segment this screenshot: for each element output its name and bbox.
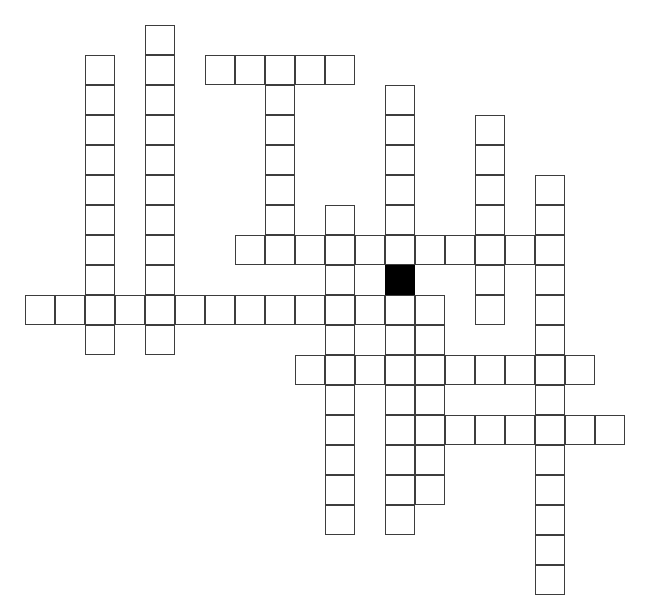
grid-cell[interactable]	[145, 85, 175, 115]
grid-cell[interactable]	[385, 475, 415, 505]
grid-cell[interactable]	[325, 415, 355, 445]
grid-cell[interactable]	[295, 55, 325, 85]
grid-cell[interactable]	[445, 355, 475, 385]
grid-cell[interactable]	[385, 145, 415, 175]
grid-cell[interactable]	[385, 175, 415, 205]
grid-cell[interactable]	[385, 115, 415, 145]
grid-cell[interactable]	[325, 265, 355, 295]
grid-cell[interactable]	[145, 205, 175, 235]
grid-cell[interactable]	[325, 505, 355, 535]
grid-cell[interactable]	[385, 505, 415, 535]
grid-cell[interactable]	[175, 295, 205, 325]
grid-cell[interactable]	[535, 385, 565, 415]
grid-cell[interactable]	[235, 55, 265, 85]
grid-cell[interactable]	[325, 385, 355, 415]
grid-cell[interactable]	[445, 235, 475, 265]
grid-cell[interactable]	[25, 295, 55, 325]
grid-cell[interactable]	[325, 325, 355, 355]
grid-cell[interactable]	[85, 205, 115, 235]
grid-cell[interactable]	[325, 55, 355, 85]
grid-cell[interactable]	[385, 415, 415, 445]
grid-cell[interactable]	[415, 475, 445, 505]
grid-cell[interactable]	[85, 265, 115, 295]
grid-cell[interactable]	[535, 355, 565, 385]
grid-cell[interactable]	[265, 145, 295, 175]
grid-cell[interactable]	[475, 175, 505, 205]
grid-cell[interactable]	[565, 415, 595, 445]
grid-cell[interactable]	[475, 115, 505, 145]
grid-cell[interactable]	[535, 535, 565, 565]
grid-cell[interactable]	[475, 205, 505, 235]
grid-cell[interactable]	[265, 295, 295, 325]
grid-cell[interactable]	[595, 415, 625, 445]
grid-cell[interactable]	[385, 235, 415, 265]
grid-cell[interactable]	[415, 445, 445, 475]
grid-cell[interactable]	[265, 235, 295, 265]
grid-cell[interactable]	[145, 145, 175, 175]
grid-cell[interactable]	[235, 295, 265, 325]
grid-cell[interactable]	[415, 355, 445, 385]
grid-cell[interactable]	[145, 115, 175, 145]
grid-cell[interactable]	[325, 205, 355, 235]
grid-cell[interactable]	[355, 295, 385, 325]
grid-cell[interactable]	[475, 295, 505, 325]
grid-cell[interactable]	[535, 565, 565, 595]
grid-cell[interactable]	[205, 295, 235, 325]
grid-cell[interactable]	[475, 415, 505, 445]
grid-cell[interactable]	[415, 295, 445, 325]
grid-cell[interactable]	[145, 265, 175, 295]
grid-cell[interactable]	[295, 235, 325, 265]
grid-cell[interactable]	[385, 385, 415, 415]
grid-cell[interactable]	[535, 175, 565, 205]
grid-cell[interactable]	[535, 235, 565, 265]
grid-cell[interactable]	[85, 235, 115, 265]
grid-cell[interactable]	[265, 85, 295, 115]
grid-cell[interactable]	[145, 295, 175, 325]
grid-cell[interactable]	[445, 415, 475, 445]
grid-cell[interactable]	[145, 175, 175, 205]
grid-cell[interactable]	[325, 355, 355, 385]
grid-cell[interactable]	[325, 235, 355, 265]
grid-cell[interactable]	[115, 295, 145, 325]
grid-cell[interactable]	[85, 55, 115, 85]
grid-cell[interactable]	[535, 325, 565, 355]
grid-cell[interactable]	[475, 235, 505, 265]
grid-cell[interactable]	[145, 235, 175, 265]
grid-cell[interactable]	[355, 235, 385, 265]
grid-cell[interactable]	[415, 415, 445, 445]
grid-cell[interactable]	[205, 55, 235, 85]
grid-cell[interactable]	[385, 205, 415, 235]
grid-cell[interactable]	[145, 325, 175, 355]
grid-cell[interactable]	[235, 235, 265, 265]
grid-cell[interactable]	[85, 175, 115, 205]
grid-cell[interactable]	[565, 355, 595, 385]
grid-cell[interactable]	[295, 295, 325, 325]
grid-cell[interactable]	[385, 355, 415, 385]
grid-cell[interactable]	[535, 265, 565, 295]
grid-cell[interactable]	[415, 235, 445, 265]
grid-cell[interactable]	[85, 85, 115, 115]
grid-cell[interactable]	[385, 445, 415, 475]
grid-cell[interactable]	[325, 445, 355, 475]
grid-cell[interactable]	[265, 205, 295, 235]
grid-cell[interactable]	[535, 415, 565, 445]
grid-cell[interactable]	[505, 415, 535, 445]
grid-cell[interactable]	[325, 295, 355, 325]
grid-cell[interactable]	[535, 445, 565, 475]
grid-cell[interactable]	[85, 325, 115, 355]
grid-cell[interactable]	[85, 295, 115, 325]
grid-cell[interactable]	[535, 505, 565, 535]
crossword-grid[interactable]	[0, 0, 654, 609]
grid-cell[interactable]	[265, 115, 295, 145]
grid-cell[interactable]	[535, 205, 565, 235]
grid-cell[interactable]	[475, 265, 505, 295]
grid-cell[interactable]	[295, 355, 325, 385]
grid-cell[interactable]	[145, 55, 175, 85]
grid-cell[interactable]	[415, 325, 445, 355]
grid-cell[interactable]	[505, 235, 535, 265]
grid-cell[interactable]	[385, 325, 415, 355]
grid-cell[interactable]	[355, 355, 385, 385]
grid-cell[interactable]	[145, 25, 175, 55]
grid-cell[interactable]	[385, 295, 415, 325]
grid-cell[interactable]	[475, 355, 505, 385]
